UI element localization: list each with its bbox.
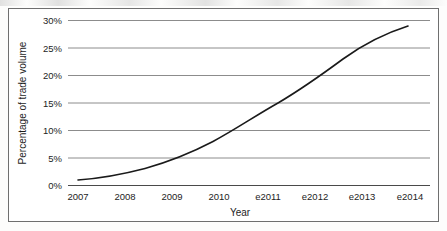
x-tick-label: e2011 <box>255 191 281 202</box>
y-tick-label: 25% <box>43 43 63 54</box>
x-tick-label: e2014 <box>397 191 423 202</box>
gridlines <box>68 21 430 159</box>
chart-figure: 30% 25% 20% 15% 10% 5% 0% 2007 2008 2009… <box>0 0 447 231</box>
y-tick-label: 15% <box>43 98 63 109</box>
x-axis-title: Year <box>230 207 251 218</box>
x-tick-label: 2007 <box>67 191 88 202</box>
x-tick-label: e2013 <box>349 191 375 202</box>
y-tick-label: 0% <box>48 180 62 191</box>
y-tick-label: 5% <box>48 153 62 164</box>
y-tick-labels: 30% 25% 20% 15% 10% 5% 0% <box>43 15 63 191</box>
x-tick-label: 2009 <box>161 191 182 202</box>
y-tick-label: 30% <box>43 15 63 26</box>
line-chart: 30% 25% 20% 15% 10% 5% 0% 2007 2008 2009… <box>0 0 447 231</box>
x-tick-label: 2010 <box>208 191 229 202</box>
y-tick-label: 10% <box>43 125 63 136</box>
y-tick-label: 20% <box>43 70 63 81</box>
x-tick-labels: 2007 2008 2009 2010 e2011 e2012 e2013 e2… <box>67 191 423 202</box>
y-axis-title: Percentage of trade volume <box>17 41 28 164</box>
x-tick-label: e2012 <box>302 191 328 202</box>
x-tick-label: 2008 <box>114 191 135 202</box>
